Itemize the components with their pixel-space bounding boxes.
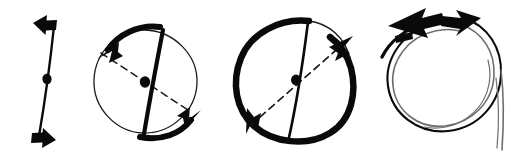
- center-dot: [291, 75, 301, 86]
- center-dot: [42, 73, 53, 85]
- bottom-arrowhead-right-icon: [31, 128, 56, 148]
- panel-thick-circle-thin-chord-with-rotation-arcs: [225, 0, 365, 163]
- spiral-tail: [501, 70, 503, 150]
- panel-spiral-loop-with-double-arrowheads: [368, 0, 518, 163]
- panel-axis-with-double-arrow: [0, 0, 90, 163]
- center-dot: [140, 76, 150, 88]
- panel-circle-thick-chord-with-rotation-arcs: [85, 0, 210, 163]
- figure-root: [0, 0, 518, 163]
- left-arrowhead-icon: [388, 8, 445, 38]
